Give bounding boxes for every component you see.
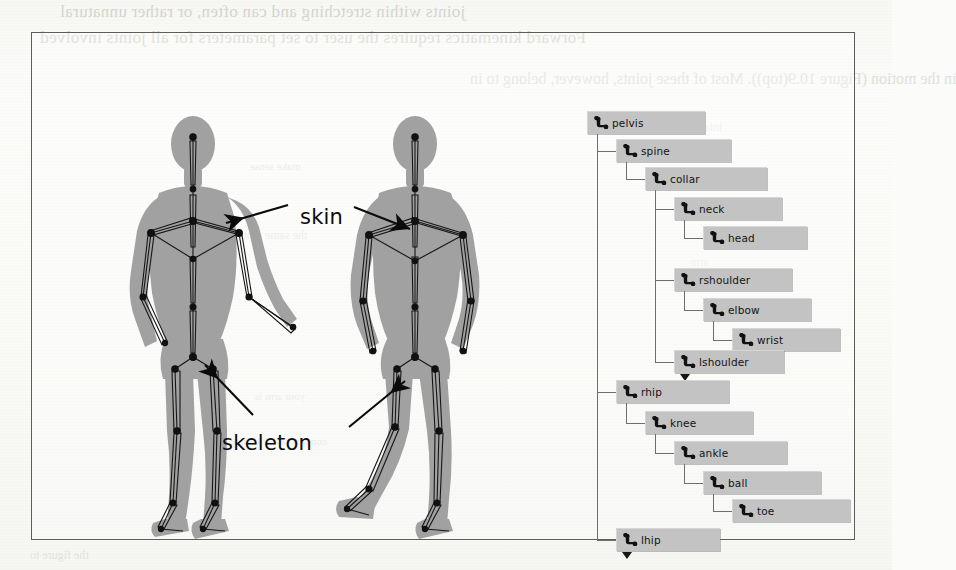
tree-connector-horizontal (597, 151, 616, 152)
tree-node-label-ankle: ankle (699, 447, 728, 459)
tree-node-ankle[interactable]: ankle (674, 441, 787, 464)
tree-connector-horizontal (655, 453, 674, 454)
tree-node-lhip[interactable]: lhip (616, 528, 720, 551)
tree-node-collar[interactable]: collar (645, 167, 767, 190)
tree-connector-vertical (713, 494, 714, 511)
tree-node-label-elbow: elbow (728, 304, 760, 316)
tree-node-neck[interactable]: neck (674, 197, 782, 220)
tree-node-label-rhip: rhip (641, 386, 662, 398)
bone-joint-icon (708, 230, 725, 247)
bone-joint-icon (621, 532, 638, 549)
tree-connector-horizontal (626, 423, 645, 424)
tree-node-knee[interactable]: knee (645, 411, 753, 434)
tree-connector-horizontal (684, 483, 703, 484)
tree-connector-vertical (684, 464, 685, 483)
skeleton-label: skeleton (222, 431, 312, 455)
bone-joint-icon (708, 302, 725, 319)
tree-node-spine[interactable]: spine (616, 139, 731, 162)
bone-joint-icon (679, 201, 696, 218)
tree-connector-vertical (684, 220, 685, 238)
tree-node-ball[interactable]: ball (703, 471, 821, 494)
joint-hierarchy-tree[interactable]: pelvisspinecollarneckheadrshoulderelboww… (583, 103, 883, 563)
tree-connector-horizontal (626, 179, 645, 180)
tree-node-wrist[interactable]: wrist (732, 328, 840, 351)
tree-node-label-rshoulder: rshoulder (699, 274, 750, 286)
tree-node-label-toe: toe (757, 505, 774, 517)
tree-connector-horizontal (684, 238, 703, 239)
tree-connector-horizontal (597, 540, 616, 541)
tree-connector-horizontal (684, 310, 703, 311)
tree-node-rhip[interactable]: rhip (616, 380, 729, 403)
humanoid-figure-left (107, 111, 342, 541)
tree-connector-vertical (655, 434, 656, 453)
tree-node-label-knee: knee (670, 417, 696, 429)
bone-joint-icon (650, 171, 667, 188)
tree-node-label-wrist: wrist (757, 334, 783, 346)
tree-node-toe[interactable]: toe (732, 499, 850, 522)
bone-joint-icon (621, 143, 638, 160)
tree-node-label-pelvis: pelvis (612, 117, 644, 129)
tree-node-rshoulder[interactable]: rshoulder (674, 268, 792, 291)
tree-connector-horizontal (713, 340, 732, 341)
collapse-triangle-lhip[interactable] (622, 552, 632, 559)
tree-node-label-head: head (728, 232, 755, 244)
tree-connector-vertical (684, 291, 685, 310)
bone-joint-icon (679, 445, 696, 462)
bone-joint-icon (708, 475, 725, 492)
humanoid-figure-right (317, 111, 562, 541)
bone-joint-icon (650, 415, 667, 432)
bone-joint-icon (679, 354, 696, 371)
tree-node-label-spine: spine (641, 145, 670, 157)
bone-joint-icon (592, 115, 609, 132)
tree-connector-vertical (713, 321, 714, 340)
tree-node-elbow[interactable]: elbow (703, 298, 811, 321)
tree-node-label-lhip: lhip (641, 534, 661, 546)
tree-connector-horizontal (713, 511, 732, 512)
tree-connector-vertical (626, 403, 627, 423)
tree-node-label-ball: ball (728, 477, 748, 489)
tree-connector-vertical (655, 190, 656, 362)
tree-node-lshoulder[interactable]: lshoulder (674, 350, 784, 373)
tree-node-head[interactable]: head (703, 226, 807, 249)
tree-connector-horizontal (655, 209, 674, 210)
skin-label: skin (300, 205, 343, 229)
tree-node-label-collar: collar (670, 173, 700, 185)
tree-connector-horizontal (655, 280, 674, 281)
bone-joint-icon (737, 332, 754, 349)
bone-joint-icon (737, 503, 754, 520)
tree-connector-vertical (597, 134, 598, 540)
tree-connector-vertical (626, 162, 627, 179)
tree-node-pelvis[interactable]: pelvis (587, 111, 705, 134)
bone-joint-icon (621, 384, 638, 401)
tree-node-label-neck: neck (699, 203, 725, 215)
tree-connector-horizontal (655, 362, 674, 363)
figure-frame: skin skeleton pelvisspinecollarneckheadr… (31, 32, 855, 540)
tree-node-label-lshoulder: lshoulder (699, 356, 749, 368)
tree-connector-horizontal (597, 392, 616, 393)
bone-joint-icon (679, 272, 696, 289)
